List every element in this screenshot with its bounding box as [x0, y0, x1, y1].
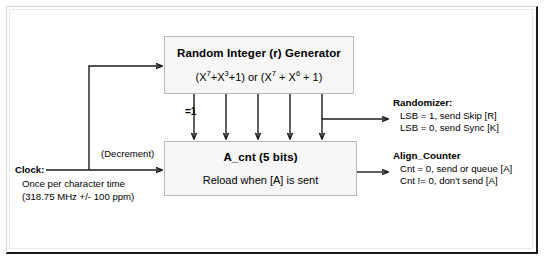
counter-title: A_cnt (5 bits)	[165, 151, 356, 163]
randomizer-line-2: LSB = 0, send Sync [K]	[393, 122, 499, 135]
clock-line-1: Once per character time	[22, 178, 134, 191]
randomizer-note: Randomizer: LSB = 1, send Skip [R] LSB =…	[393, 97, 499, 135]
align-counter-line-1: Cnt = 0, send or queue [A]	[393, 163, 512, 176]
decrement-label: (Decrement)	[101, 148, 154, 159]
a-cnt-counter-box: A_cnt (5 bits) Reload when [A] is sent	[164, 141, 357, 196]
clock-label: Clock:	[15, 164, 44, 175]
randomizer-title: Randomizer:	[393, 97, 499, 110]
generator-title: Random Integer (r) Generator	[165, 47, 353, 59]
diagram-canvas: Random Integer (r) Generator (X7+X3+1) o…	[0, 0, 550, 266]
generator-polynomial: (X7+X3+1) or (X7 + X6 + 1)	[165, 71, 353, 83]
align-counter-note: Align_Counter Cnt = 0, send or queue [A]…	[393, 150, 512, 188]
clock-line-2: (318.75 MHz +/- 100 ppm)	[22, 191, 134, 204]
align-counter-line-2: Cnt != 0, don't send [A]	[393, 175, 512, 188]
clock-description: Once per character time (318.75 MHz +/- …	[22, 178, 134, 203]
randomizer-line-1: LSB = 1, send Skip [R]	[393, 110, 499, 123]
align-counter-title: Align_Counter	[393, 150, 512, 163]
random-integer-generator-box: Random Integer (r) Generator (X7+X3+1) o…	[164, 36, 354, 94]
counter-subtitle: Reload when [A] is sent	[165, 174, 356, 186]
xor-gate-label: =1	[185, 106, 196, 117]
